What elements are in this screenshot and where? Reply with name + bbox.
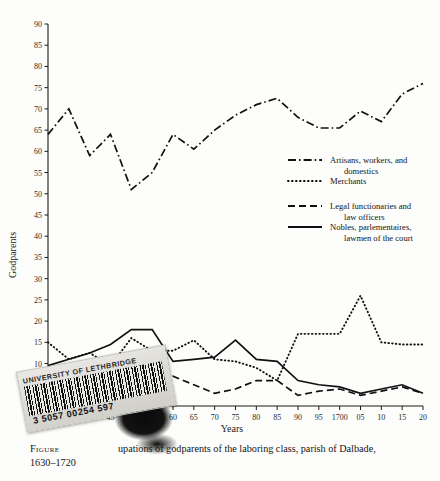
x-tick-label: 20	[419, 413, 427, 422]
x-tick-label: 70	[211, 413, 219, 422]
y-tick-label: 85	[34, 41, 42, 50]
x-tick-label: 95	[315, 413, 323, 422]
legend-label-0-line2: domestics	[344, 166, 379, 176]
legend-label-1: Merchants	[330, 176, 367, 186]
y-axis: 051015202530354045505560657075808590	[34, 20, 48, 411]
x-tick-label: 40	[86, 413, 94, 422]
y-tick-label: 35	[34, 253, 42, 262]
x-tick-label: 80	[252, 413, 260, 422]
figure-caption: Figure upations of godparents of the lab…	[30, 442, 436, 469]
legend-label-3: Nobles, parlementaires,	[330, 222, 411, 232]
y-tick-label: 5	[38, 381, 42, 390]
legend-label-2: Legal functionaries and	[330, 201, 412, 211]
x-tick-label: 10	[377, 413, 385, 422]
y-tick-label: 70	[34, 105, 42, 114]
x-tick-label: 1630	[40, 413, 56, 422]
y-tick-label: 80	[34, 62, 42, 71]
x-tick-label: 50	[127, 413, 135, 422]
y-axis-title: Godparents	[7, 232, 18, 278]
chart-legend: Artisans, workers, anddomesticsMerchants…	[288, 155, 414, 243]
x-tick-label: 05	[357, 413, 365, 422]
x-tick-label: 90	[294, 413, 302, 422]
y-tick-label: 55	[34, 169, 42, 178]
godparents-line-chart: 051015202530354045505560657075808590 163…	[0, 0, 440, 481]
x-tick-label: 65	[190, 413, 198, 422]
legend-label-3-line2: lawmen of the court	[344, 233, 414, 243]
legend-label-0: Artisans, workers, and	[330, 155, 408, 165]
x-tick-label: 75	[232, 413, 240, 422]
x-axis: 1630354045505560657075808590951700051015…	[40, 406, 427, 422]
y-tick-label: 45	[34, 211, 42, 220]
y-tick-label: 90	[34, 20, 42, 29]
y-tick-label: 15	[34, 338, 42, 347]
y-tick-label: 75	[34, 84, 42, 93]
y-tick-label: 25	[34, 296, 42, 305]
y-tick-label: 60	[34, 147, 42, 156]
series-line-2	[48, 364, 423, 396]
y-tick-label: 20	[34, 317, 42, 326]
x-tick-label: 1700	[332, 413, 348, 422]
figure-container: 051015202530354045505560657075808590 163…	[0, 0, 440, 481]
y-tick-label: 50	[34, 190, 42, 199]
y-tick-label: 65	[34, 126, 42, 135]
x-tick-label: 55	[148, 413, 156, 422]
caption-figure-word: Figure	[30, 443, 59, 454]
caption-year-range: 1630–1720	[30, 457, 76, 468]
caption-body: upations of godparents of the laboring c…	[118, 443, 376, 454]
y-tick-label: 30	[34, 275, 42, 284]
legend-label-2-line2: law officers	[344, 212, 385, 222]
x-tick-label: 15	[398, 413, 406, 422]
y-tick-label: 10	[34, 360, 42, 369]
x-tick-label: 45	[107, 413, 115, 422]
x-tick-label: 35	[65, 413, 73, 422]
y-tick-label: 0	[38, 402, 42, 411]
x-tick-label: 85	[273, 413, 281, 422]
y-tick-label: 40	[34, 232, 42, 241]
x-axis-title: Years	[221, 423, 243, 434]
x-tick-label: 60	[169, 413, 177, 422]
